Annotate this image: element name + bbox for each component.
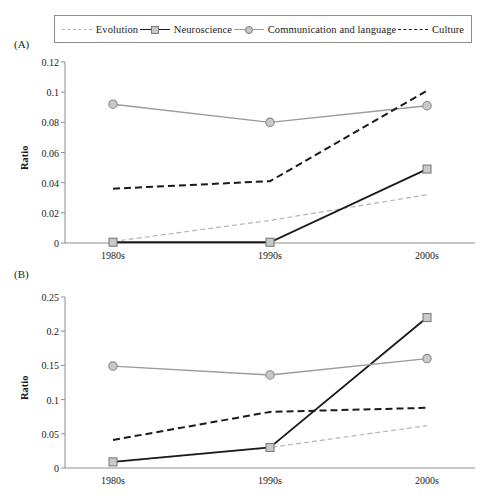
- legend-label-communication: Communication and language: [268, 24, 397, 35]
- y-axis-tick-label: 0.1: [47, 87, 481, 98]
- legend-swatch-culture: [398, 24, 428, 35]
- legend-swatch-neuroscience: [140, 24, 170, 35]
- y-axis-tick-label: 0.15: [42, 360, 481, 371]
- legend-item-communication: Communication and language: [234, 24, 397, 35]
- legend-item-culture: Culture: [398, 24, 464, 35]
- y-axis-tick-label: 0.25: [42, 292, 481, 303]
- chart-panel-a: 00.020.040.060.080.10.121980s1990s2000sR…: [0, 52, 481, 267]
- y-axis-tick-label: 0.02: [42, 207, 481, 218]
- x-axis-tick-label: 1980s: [101, 475, 125, 486]
- data-point-neuroscience: [423, 165, 431, 173]
- y-axis-title: Ratio: [19, 375, 30, 400]
- y-axis-tick-label: 0.04: [42, 177, 481, 188]
- x-axis-tick-label: 1980s: [101, 250, 125, 261]
- legend-label-culture: Culture: [432, 24, 464, 35]
- chart-panel-b: 00.050.10.150.20.251980s1990s2000sRatio: [0, 285, 481, 503]
- figure-container: Evolution Neuroscience Communication and…: [0, 0, 481, 503]
- y-axis-tick-label: 0.2: [47, 326, 481, 337]
- data-point-neuroscience: [423, 314, 431, 322]
- x-axis-tick-label: 2000s: [415, 475, 439, 486]
- legend-label-neuroscience: Neuroscience: [174, 24, 232, 35]
- y-axis-tick-label: 0.1: [47, 394, 481, 405]
- data-point-communication-and-language: [266, 371, 274, 379]
- panel-label-b: (B): [14, 268, 29, 280]
- y-axis-tick-label: 0: [54, 463, 481, 474]
- legend-swatch-evolution: [62, 24, 92, 35]
- y-axis-tick-label: 0.06: [42, 147, 481, 158]
- legend-label-evolution: Evolution: [96, 24, 138, 35]
- circle-marker-icon: [245, 26, 253, 34]
- y-axis-title: Ratio: [19, 145, 30, 170]
- x-axis-tick-label: 2000s: [415, 250, 439, 261]
- chart-legend: Evolution Neuroscience Communication and…: [54, 15, 472, 43]
- y-axis-tick-label: 0: [54, 238, 481, 249]
- panel-label-a: (A): [14, 38, 29, 50]
- square-marker-icon: [151, 26, 159, 34]
- x-axis-tick-label: 1990s: [258, 250, 282, 261]
- data-point-neuroscience: [266, 443, 274, 451]
- y-axis-tick-label: 0.12: [42, 57, 481, 68]
- data-point-communication-and-language: [109, 100, 117, 108]
- x-axis-tick-label: 1990s: [258, 475, 282, 486]
- legend-item-evolution: Evolution: [62, 24, 138, 35]
- y-axis-tick-label: 0.08: [42, 117, 481, 128]
- plot-area-a: [0, 52, 481, 267]
- data-point-communication-and-language: [423, 102, 431, 110]
- legend-item-neuroscience: Neuroscience: [140, 24, 232, 35]
- series-line-culture: [113, 91, 427, 189]
- series-line-neuroscience: [113, 318, 427, 462]
- y-axis-tick-label: 0.05: [42, 428, 481, 439]
- legend-swatch-communication: [234, 24, 264, 35]
